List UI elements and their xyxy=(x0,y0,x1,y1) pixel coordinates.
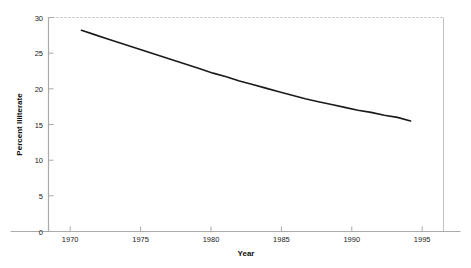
line-chart: 30 25 20 15 10 5 0 1970 1975 1980 1985 1… xyxy=(0,0,471,268)
y-tick-label-20: 20 xyxy=(35,85,43,94)
x-tick-label-1970: 1970 xyxy=(62,235,79,244)
x-axis-title: Year xyxy=(238,249,255,258)
y-tick-label-10: 10 xyxy=(35,156,43,165)
y-axis-title: Percent Illiterate xyxy=(15,93,24,156)
x-tick-label-1980: 1980 xyxy=(203,235,220,244)
x-tick-label-1975: 1975 xyxy=(132,235,149,244)
x-tick-label-1995: 1995 xyxy=(414,235,431,244)
chart-figure: 30 25 20 15 10 5 0 1970 1975 1980 1985 1… xyxy=(0,0,471,268)
x-axis-ticks: 1970 1975 1980 1985 1990 1995 xyxy=(62,227,431,245)
x-tick-label-1985: 1985 xyxy=(273,235,290,244)
x-tick-label-1990: 1990 xyxy=(343,235,360,244)
y-axis-ticks: 30 25 20 15 10 5 0 xyxy=(35,14,54,237)
y-tick-label-0: 0 xyxy=(39,228,43,237)
y-tick-label-25: 25 xyxy=(35,49,43,58)
y-tick-label-30: 30 xyxy=(35,14,43,23)
plot-frame xyxy=(11,18,461,232)
data-line-percent-illiterate xyxy=(81,30,410,121)
y-tick-label-15: 15 xyxy=(35,121,43,130)
y-tick-label-5: 5 xyxy=(39,192,43,201)
